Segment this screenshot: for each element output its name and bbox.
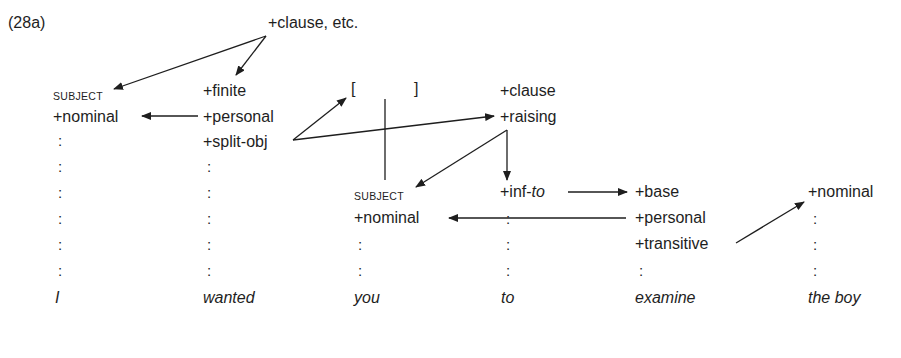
arrow-raising-to-subject: [416, 130, 507, 187]
bracket-close: ]: [414, 80, 418, 98]
continuation-mark: :: [58, 185, 68, 200]
continuation-mark: :: [207, 185, 217, 200]
continuation-mark: :: [813, 211, 823, 226]
feature-nominal: +nominal: [53, 108, 118, 126]
continuation-mark: :: [58, 263, 68, 278]
arrow-splitobj-to-bracket: [293, 98, 346, 140]
feature-transitive: +transitive: [635, 235, 708, 253]
feature-finite: +finite: [203, 82, 246, 100]
word-the-boy: the boy: [808, 289, 860, 307]
arrow-splitobj-to-raising: [293, 116, 494, 140]
feature-inf-to: +inf-to: [500, 183, 545, 201]
continuation-mark: :: [358, 237, 368, 252]
continuation-mark: :: [207, 211, 217, 226]
word-to: to: [501, 289, 514, 307]
continuation-mark: :: [506, 237, 516, 252]
continuation-mark: :: [639, 263, 649, 278]
continuation-mark: :: [506, 211, 516, 226]
continuation-mark: :: [58, 133, 68, 148]
continuation-mark: :: [207, 263, 217, 278]
continuation-mark: :: [813, 237, 823, 252]
feature-base: +base: [635, 183, 679, 201]
feature-nominal: +nominal: [808, 183, 873, 201]
word-you: you: [354, 289, 380, 307]
feature-split-obj: +split-obj: [203, 133, 267, 151]
arrow-transitive-to-nominal: [736, 202, 804, 243]
feature-personal: +personal: [635, 209, 706, 227]
bracket-open: [: [351, 80, 355, 98]
continuation-mark: :: [58, 211, 68, 226]
continuation-mark: :: [358, 263, 368, 278]
continuation-mark: :: [207, 237, 217, 252]
word-examine: examine: [635, 289, 695, 307]
feature-clause: +clause: [500, 82, 556, 100]
continuation-mark: :: [58, 159, 68, 174]
word-i: I: [55, 289, 59, 307]
continuation-mark: :: [813, 263, 823, 278]
feature-raising: +raising: [500, 108, 556, 126]
feature-personal: +personal: [203, 108, 274, 126]
feature-nominal: +nominal: [354, 209, 419, 227]
continuation-mark: :: [58, 237, 68, 252]
feature-subject: SUBJECT: [354, 187, 404, 205]
feature-subject: SUBJECT: [53, 87, 103, 105]
example-label: (28a): [8, 14, 45, 32]
continuation-mark: :: [506, 263, 516, 278]
word-wanted: wanted: [203, 289, 255, 307]
arrow-layer: [0, 0, 901, 358]
root-feature: +clause, etc.: [268, 14, 358, 32]
continuation-mark: :: [207, 159, 217, 174]
